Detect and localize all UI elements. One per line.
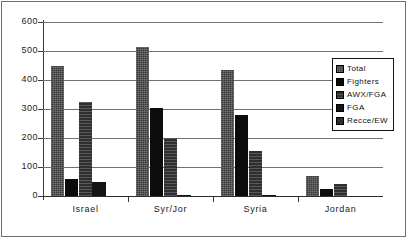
x-axis-tick-mark xyxy=(213,197,214,202)
y-axis-tick-mark xyxy=(38,196,43,197)
gridline xyxy=(43,167,383,168)
legend-label: Total xyxy=(347,64,366,73)
y-axis-labels: 0100200300400500600 xyxy=(0,0,38,240)
y-axis-tick-mark xyxy=(38,51,43,52)
x-axis-tick-mark xyxy=(128,197,129,202)
y-axis-tick-mark xyxy=(38,80,43,81)
y-axis-tick-label: 600 xyxy=(4,17,38,26)
legend-label: FGA xyxy=(347,103,365,112)
y-axis-tick-mark xyxy=(38,167,43,168)
x-axis-label-israel: Israel xyxy=(43,204,128,214)
legend-swatch-fighters-icon xyxy=(336,78,344,86)
y-axis-tick-label: 400 xyxy=(4,75,38,84)
legend-swatch-total-icon xyxy=(336,65,344,73)
bar-israel-awxfga xyxy=(79,102,92,196)
bar-israel-fighters xyxy=(65,179,78,196)
legend-swatch-recce-icon xyxy=(336,117,344,125)
x-axis-label-syria: Syria xyxy=(213,204,298,214)
legend-item-fighters[interactable]: Fighters xyxy=(336,75,390,88)
legend-swatch-awxfga-icon xyxy=(336,91,344,99)
chart-screenshot: 0100200300400500600 IsraelSyr/JorSyriaJo… xyxy=(0,0,408,240)
y-axis-tick-mark xyxy=(38,22,43,23)
gridline xyxy=(43,51,383,52)
bar-syrjor-fighters xyxy=(150,108,163,196)
bar-israel-total xyxy=(51,66,64,197)
bar-syria-fighters xyxy=(235,115,248,196)
bar-jordan-total xyxy=(306,176,319,196)
legend-label: Fighters xyxy=(347,77,379,86)
x-axis-label-jordan: Jordan xyxy=(298,204,383,214)
y-axis-tick-label: 200 xyxy=(4,133,38,142)
y-axis-tick-label: 500 xyxy=(4,46,38,55)
legend-label: AWX/FGA xyxy=(347,90,386,99)
y-axis-tick-label: 0 xyxy=(4,191,38,200)
bar-jordan-fighters xyxy=(320,189,333,196)
legend-label: Recce/EW xyxy=(347,116,388,125)
legend-item-total[interactable]: Total xyxy=(336,62,390,75)
legend-item-fga[interactable]: FGA xyxy=(336,101,390,114)
x-axis-label-syrjor: Syr/Jor xyxy=(128,204,213,214)
legend-item-awxfga[interactable]: AWX/FGA xyxy=(336,88,390,101)
bar-jordan-awxfga xyxy=(334,184,347,196)
legend-swatch-fga-icon xyxy=(336,104,344,112)
gridline xyxy=(43,22,383,23)
y-axis-tick-mark xyxy=(38,109,43,110)
bar-syrjor-total xyxy=(136,47,149,196)
bar-syria-total xyxy=(221,70,234,196)
legend-item-recceew[interactable]: Recce/EW xyxy=(336,114,390,127)
x-axis-tick-mark xyxy=(298,197,299,202)
y-axis-tick-label: 100 xyxy=(4,162,38,171)
gridline xyxy=(43,138,383,139)
bar-israel-fga xyxy=(92,182,105,197)
y-axis-tick-mark xyxy=(38,138,43,139)
y-axis-tick-label: 300 xyxy=(4,104,38,113)
bar-syrjor-awxfga xyxy=(164,138,177,196)
bar-syria-awxfga xyxy=(249,151,262,196)
chart-legend: TotalFightersAWX/FGAFGARecce/EW xyxy=(332,58,394,131)
